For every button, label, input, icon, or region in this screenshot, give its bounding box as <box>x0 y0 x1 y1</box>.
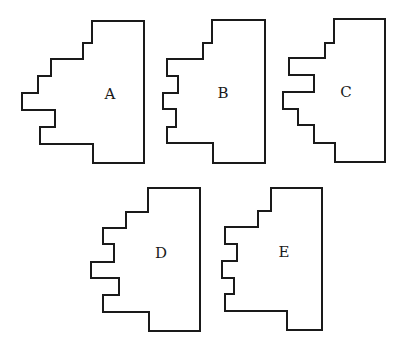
shapes-figure: A B C D E <box>0 0 405 350</box>
shape-c-label: C <box>340 83 351 101</box>
shape-b: B <box>163 20 265 163</box>
shape-e-outline <box>222 188 322 330</box>
shape-e-label: E <box>279 243 290 261</box>
shape-c: C <box>283 19 385 162</box>
shape-e: E <box>222 188 322 330</box>
shape-d-label: D <box>155 244 167 262</box>
shape-c-outline <box>283 19 385 162</box>
shape-a-outline <box>22 21 144 163</box>
shape-a-label: A <box>104 85 116 103</box>
shape-b-label: B <box>217 84 228 102</box>
shape-d-outline <box>91 188 200 331</box>
shape-d: D <box>91 188 200 331</box>
shape-b-outline <box>163 20 265 163</box>
shape-a: A <box>22 21 144 163</box>
